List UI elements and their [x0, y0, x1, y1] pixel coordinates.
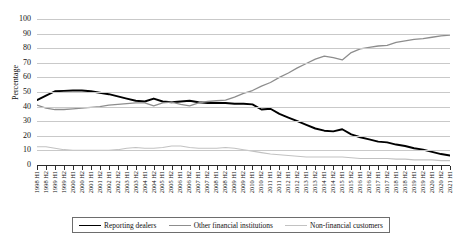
x-axis-tick-label: 2017 H1: [375, 171, 381, 193]
x-axis-tick: [288, 166, 289, 170]
x-axis-tick: [91, 166, 92, 170]
series-line-2: [37, 146, 450, 161]
legend-item-2[interactable]: Non-financial customers: [285, 221, 383, 230]
gridline: [37, 77, 450, 78]
y-axis-tick-label: 30: [23, 117, 31, 125]
x-axis-tick: [100, 166, 101, 170]
x-axis-tick: [55, 166, 56, 170]
y-axis-tick-label: 100: [19, 15, 31, 23]
y-axis-tick-label: 40: [23, 103, 31, 111]
x-axis-tick: [297, 166, 298, 170]
x-axis-tick-label: 2006 H2: [186, 171, 192, 193]
x-axis-tick-label: 2013 H2: [312, 171, 318, 193]
chart-legend: Reporting dealersOther financial institu…: [72, 217, 390, 233]
x-axis-tick: [261, 166, 262, 170]
x-axis-tick-label: 1999 H1: [52, 171, 58, 193]
x-axis-tick-label: 2014 H1: [321, 171, 327, 193]
y-axis-tick-label: 50: [23, 88, 31, 96]
x-axis-tick: [46, 166, 47, 170]
x-axis-tick-label: 2006 H1: [177, 171, 183, 193]
gridline: [37, 34, 450, 35]
x-axis-tick-label: 2001 H1: [88, 171, 94, 193]
x-axis-tick-label: 2015 H2: [348, 171, 354, 193]
x-axis-tick: [109, 166, 110, 170]
x-axis-tick: [64, 166, 65, 170]
x-axis-tick: [136, 166, 137, 170]
x-axis-tick-label: 1998 H2: [43, 171, 49, 193]
x-axis-tick-label: 2010 H2: [258, 171, 264, 193]
x-axis-tick-label: 2004 H2: [151, 171, 157, 193]
legend-item-1[interactable]: Other financial institutions: [169, 221, 273, 230]
x-axis-tick-label: 2018 H1: [393, 171, 399, 193]
x-axis-tick-label: 2019 H1: [411, 171, 417, 193]
legend-item-0[interactable]: Reporting dealers: [79, 221, 156, 230]
x-axis-tick-label: 2001 H2: [97, 171, 103, 193]
x-axis-tick: [270, 166, 271, 170]
x-axis-tick-label: 2011 H1: [267, 171, 273, 193]
x-axis-tick: [333, 166, 334, 170]
legend-label: Non-financial customers: [310, 221, 383, 230]
x-axis-tick-label: 2002 H2: [115, 171, 121, 193]
x-axis-tick-label: 2003 H2: [133, 171, 139, 193]
x-axis-tick-label: 2009 H2: [240, 171, 246, 193]
y-axis-tick-label: 90: [23, 30, 31, 38]
x-axis-tick-label: 2007 H2: [204, 171, 210, 193]
x-axis-tick-label: 2000 H2: [79, 171, 85, 193]
legend-line-swatch: [79, 225, 101, 226]
y-axis-tick-label: 80: [23, 44, 31, 52]
x-axis-tick: [37, 166, 38, 170]
y-axis-tick-label: 10: [23, 146, 31, 154]
x-axis-tick: [235, 166, 236, 170]
x-axis-tick: [279, 166, 280, 170]
y-axis-tick-label: 60: [23, 73, 31, 81]
y-axis-tick-label: 70: [23, 59, 31, 67]
x-axis-tick-label: 2008 H2: [222, 171, 228, 193]
x-axis-ticks: [37, 166, 450, 170]
gridline: [37, 92, 450, 93]
x-axis-tick: [306, 166, 307, 170]
x-axis-tick-label: 2002 H1: [106, 171, 112, 193]
x-axis-tick-label: 2012 H1: [285, 171, 291, 193]
legend-line-swatch: [285, 225, 307, 226]
x-axis-tick-label: 2014 H2: [330, 171, 336, 193]
x-axis-tick: [199, 166, 200, 170]
gridline: [37, 136, 450, 137]
gridline: [37, 150, 450, 151]
x-axis-tick: [82, 166, 83, 170]
x-axis-tick: [423, 166, 424, 170]
x-axis-tick: [378, 166, 379, 170]
legend-label: Other financial institutions: [194, 221, 273, 230]
x-axis-tick-label: 2000 H1: [70, 171, 76, 193]
series-line-0: [37, 91, 450, 156]
x-axis-tick-label: 2018 H2: [402, 171, 408, 193]
plot-area: [37, 19, 450, 165]
x-axis-tick: [351, 166, 352, 170]
x-axis-tick-label: 2016 H1: [357, 171, 363, 193]
x-axis-tick: [118, 166, 119, 170]
x-axis-tick-label: 2020 H1: [429, 171, 435, 193]
x-axis-tick: [360, 166, 361, 170]
x-axis-tick: [172, 166, 173, 170]
x-axis-tick: [73, 166, 74, 170]
x-axis-tick: [342, 166, 343, 170]
legend-label: Reporting dealers: [104, 221, 156, 230]
x-axis-tick: [190, 166, 191, 170]
legend-line-swatch: [169, 225, 191, 226]
x-axis-tick-label: 2017 H2: [384, 171, 390, 193]
x-axis-tick: [163, 166, 164, 170]
x-axis-tick-label: 2020 H2: [438, 171, 444, 193]
x-axis-tick: [244, 166, 245, 170]
gridline: [37, 19, 450, 20]
x-axis-tick-label: 2005 H1: [159, 171, 165, 193]
x-axis-tick: [432, 166, 433, 170]
x-axis-tick-label: 2021 H1: [447, 171, 453, 193]
x-axis-tick: [324, 166, 325, 170]
x-axis-tick: [414, 166, 415, 170]
x-axis-tick-label: 2015 H1: [339, 171, 345, 193]
x-axis-tick-label: 2003 H1: [124, 171, 130, 193]
x-axis-tick: [387, 166, 388, 170]
gridline: [37, 107, 450, 108]
y-axis-tick-label: 20: [23, 132, 31, 140]
x-axis-tick-label: 2012 H2: [294, 171, 300, 193]
x-axis-tick-label: 2016 H2: [366, 171, 372, 193]
